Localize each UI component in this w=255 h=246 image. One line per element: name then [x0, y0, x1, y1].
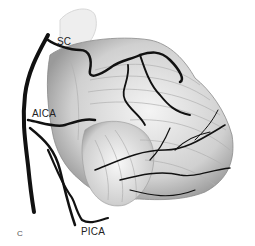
label-pica: PICA — [81, 226, 105, 237]
label-aica: AICA — [32, 108, 56, 119]
panel-label: C — [17, 229, 23, 238]
cerebellum-drawing — [0, 0, 255, 246]
cerebellum-illustration: SC AICA PICA C — [0, 0, 255, 246]
label-sc: SC — [57, 36, 71, 47]
